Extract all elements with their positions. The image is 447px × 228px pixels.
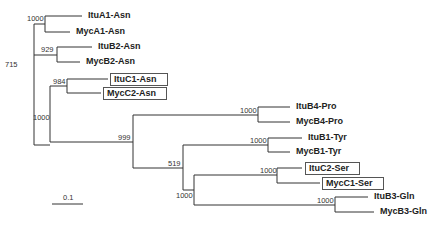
leaf-label: MycB2-Asn [86, 56, 135, 67]
bootstrap-value: 1000 [176, 191, 193, 200]
leaf-label: MycB4-Pro [296, 116, 343, 127]
bootstrap-value: 984 [53, 77, 66, 86]
leaf-label: ItuB1-Tyr [308, 132, 347, 143]
bootstrap-value: 929 [41, 45, 54, 54]
scale-bar-label: 0.1 [63, 193, 73, 202]
leaf-label-boxed: MycC1-Ser [322, 177, 384, 190]
leaf-label-boxed: ItuC1-Asn [110, 73, 168, 86]
bootstrap-value: 1000 [33, 113, 50, 122]
leaf-label: ItuB4-Pro [296, 101, 337, 112]
leaf-label: ItuB3-Gln [374, 191, 415, 202]
bootstrap-value: 1000 [240, 106, 257, 115]
leaf-label: MycB1-Tyr [296, 146, 341, 157]
bootstrap-value: 999 [118, 133, 131, 142]
bootstrap-value: 1000 [250, 136, 267, 145]
leaf-label: ItuB2-Asn [98, 41, 141, 52]
bootstrap-value: 1000 [317, 196, 334, 205]
leaf-label: MycA1-Asn [76, 26, 125, 37]
leaf-label-boxed: MycC2-Asn [103, 87, 167, 100]
bootstrap-value: 1000 [260, 166, 277, 175]
bootstrap-value: 715 [5, 60, 18, 69]
bootstrap-value: 519 [168, 159, 181, 168]
leaf-label: ItuA1-Asn [88, 10, 131, 21]
leaf-label-boxed: ItuC2-Ser [305, 162, 360, 175]
leaf-label: MycB3-Gln [380, 206, 427, 217]
bootstrap-value: 1000 [27, 14, 44, 23]
